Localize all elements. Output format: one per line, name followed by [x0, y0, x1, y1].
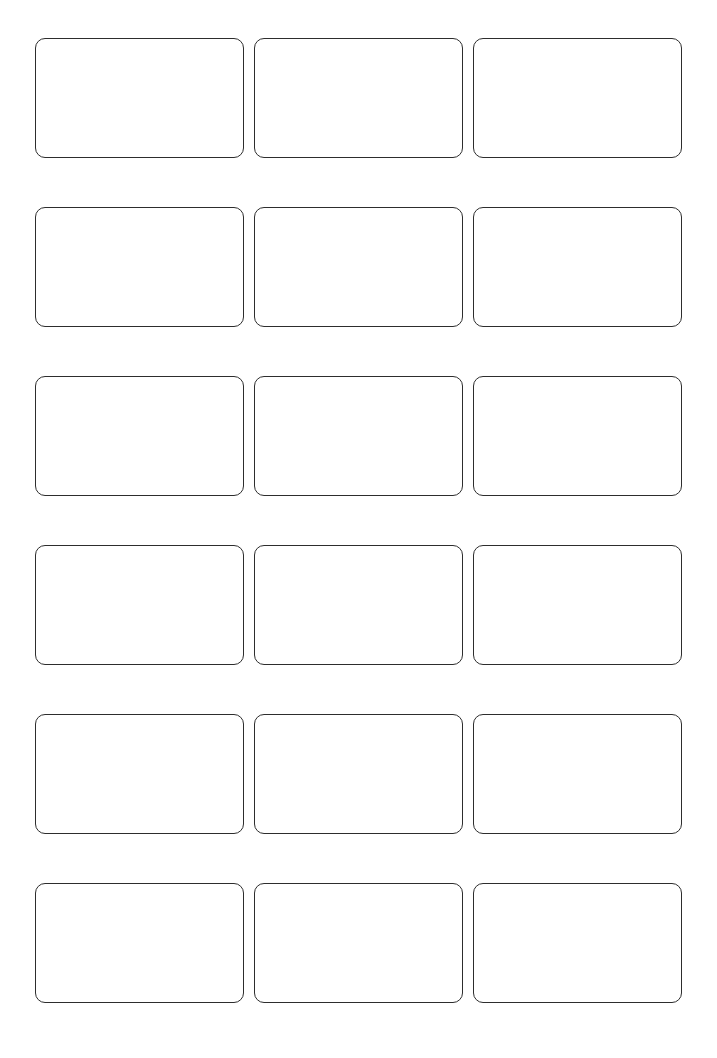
label-card[interactable]	[473, 38, 682, 158]
label-card[interactable]	[35, 883, 244, 1003]
label-card[interactable]	[35, 545, 244, 665]
label-card[interactable]	[254, 376, 463, 496]
label-card[interactable]	[254, 714, 463, 834]
label-card[interactable]	[473, 207, 682, 327]
label-sheet-page	[0, 0, 717, 1058]
label-card[interactable]	[254, 38, 463, 158]
label-card[interactable]	[254, 207, 463, 327]
label-card[interactable]	[473, 376, 682, 496]
label-card[interactable]	[35, 714, 244, 834]
label-card[interactable]	[473, 545, 682, 665]
label-card[interactable]	[35, 207, 244, 327]
label-card[interactable]	[35, 38, 244, 158]
label-card[interactable]	[473, 883, 682, 1003]
label-card[interactable]	[254, 545, 463, 665]
label-card[interactable]	[473, 714, 682, 834]
label-grid	[35, 38, 682, 1005]
label-card[interactable]	[254, 883, 463, 1003]
label-card[interactable]	[35, 376, 244, 496]
